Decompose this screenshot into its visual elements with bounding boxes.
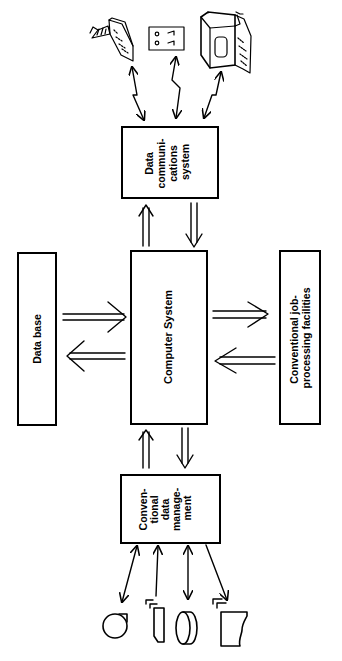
data-comms-label-4: system: [179, 144, 191, 180]
database-box: Data base: [18, 253, 56, 425]
storage-link-cards: [156, 546, 158, 596]
data-comms-label-1: Data: [143, 152, 155, 175]
storage-link-report: [206, 545, 227, 600]
data-communications-box: Data communi- cations system: [122, 127, 218, 198]
job-processing-label-2: processing facilities: [300, 287, 312, 388]
card-deck-icon: [146, 600, 164, 642]
computer-datamgmt-arrows: [139, 428, 193, 468]
magnetic-disk-icon: [176, 612, 197, 644]
terminal-link-left: [132, 67, 144, 120]
svg-text:Data communi- cati: Data communi- cations system: [143, 135, 191, 188]
computer-system-box: Computer System: [131, 251, 207, 424]
data-management-box: Conven- tional data manage- ment: [121, 475, 220, 543]
svg-text:Conven- tional dat: Conven- tional data manage- ment: [137, 485, 193, 531]
job-processing-label-1: Conventional job-: [288, 295, 300, 384]
computer-system-label: Computer System: [162, 290, 174, 384]
database-computer-arrows: [63, 302, 126, 371]
storage-link-tape: [122, 546, 137, 602]
data-mgmt-label-5: ment: [181, 495, 193, 521]
card-reader-terminal-icon: [149, 27, 184, 50]
terminal-link-right: [204, 72, 221, 118]
data-comms-label-2: communi-: [155, 138, 167, 189]
printed-report-icon: [213, 599, 247, 646]
terminal-link-middle: [172, 57, 180, 118]
teleprinter-terminal-icon: [90, 18, 133, 61]
computer-jobprocessing-arrows: [213, 302, 275, 373]
database-label: Data base: [31, 314, 43, 364]
system-diagram: Data communi- cations system Data base C…: [0, 0, 342, 661]
data-comms-label-3: cations: [167, 145, 179, 182]
comms-computer-arrows: [139, 203, 202, 247]
video-display-terminal-icon: [201, 12, 251, 73]
magnetic-tape-icon: [103, 614, 127, 638]
job-processing-box: Conventional job- processing facilities: [280, 251, 320, 424]
svg-text:Conventional job- proces: Conventional job- processing facilities: [288, 287, 312, 388]
